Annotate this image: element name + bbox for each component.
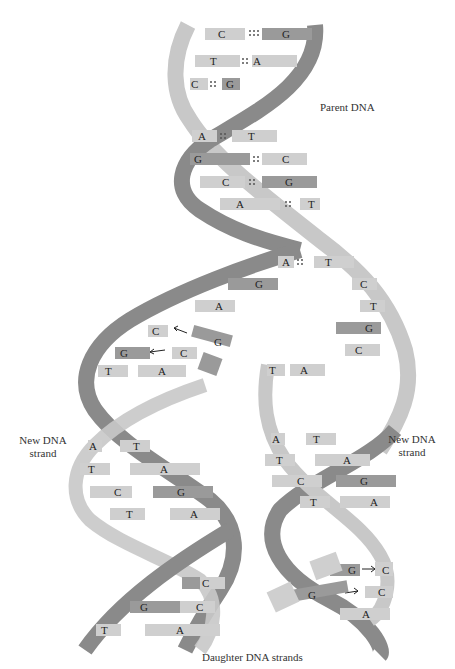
left-old-strand xyxy=(86,250,300,650)
svg-text:T: T xyxy=(210,55,217,67)
svg-text:T: T xyxy=(133,440,140,452)
svg-text:T: T xyxy=(269,364,276,376)
svg-text:C: C xyxy=(196,601,203,613)
svg-text:C: C xyxy=(282,153,289,165)
svg-text:T: T xyxy=(101,624,108,636)
svg-text:T: T xyxy=(248,130,255,142)
svg-text:A: A xyxy=(253,55,261,67)
svg-text:G: G xyxy=(365,322,373,334)
svg-text:A: A xyxy=(215,300,223,312)
svg-text:T: T xyxy=(325,256,332,268)
svg-text:G: G xyxy=(140,601,148,613)
svg-text:G: G xyxy=(282,28,290,40)
daughter-dna-label: Daughter DNA strands xyxy=(202,651,303,664)
svg-text:A: A xyxy=(160,463,168,475)
svg-text:C: C xyxy=(378,586,385,598)
svg-text:A: A xyxy=(176,624,184,636)
svg-text:A: A xyxy=(370,496,378,508)
svg-text:G: G xyxy=(255,278,263,290)
svg-text:G: G xyxy=(214,336,222,348)
svg-text:G: G xyxy=(177,486,185,498)
svg-text:T: T xyxy=(105,365,112,377)
svg-text:C: C xyxy=(191,78,198,90)
svg-text:C: C xyxy=(360,278,367,290)
svg-text:A: A xyxy=(300,364,308,376)
parent-dna-label: Parent DNA xyxy=(320,101,375,114)
right-daughter-pairs: AT TA CG TA GC GC A xyxy=(265,433,396,620)
svg-text:G: G xyxy=(285,176,293,188)
svg-text:T: T xyxy=(308,198,315,210)
svg-text:C: C xyxy=(202,577,209,589)
svg-text:A: A xyxy=(198,130,206,142)
svg-text:G: G xyxy=(194,153,202,165)
new-dna-left-line1: New DNA xyxy=(18,434,68,447)
svg-text:C: C xyxy=(218,28,225,40)
svg-text:C: C xyxy=(180,347,187,359)
svg-text:A: A xyxy=(282,256,290,268)
svg-text:C: C xyxy=(355,344,362,356)
svg-text:T: T xyxy=(126,508,133,520)
svg-text:A: A xyxy=(272,433,280,445)
svg-text:C: C xyxy=(297,475,304,487)
svg-text:G: G xyxy=(120,347,128,359)
svg-text:T: T xyxy=(313,433,320,445)
dna-replication-diagram: CG TA CG AT GC CG AT AT G A C T G C C G … xyxy=(0,0,455,669)
svg-text:A: A xyxy=(343,454,351,466)
svg-text:A: A xyxy=(362,608,370,620)
svg-text:C: C xyxy=(222,176,229,188)
svg-text:C: C xyxy=(152,325,159,337)
new-dna-right-line1: New DNA xyxy=(387,433,437,446)
svg-text:T: T xyxy=(276,454,283,466)
svg-text:A: A xyxy=(158,365,166,377)
svg-text:C: C xyxy=(114,486,121,498)
right-new-strand xyxy=(265,365,387,620)
svg-text:A: A xyxy=(89,440,97,452)
svg-text:C: C xyxy=(382,564,389,576)
svg-text:G: G xyxy=(308,589,316,601)
svg-text:T: T xyxy=(310,496,317,508)
new-dna-left-line2: strand xyxy=(18,447,68,460)
fork-bases: G A C T G C C G C G TA TA xyxy=(98,278,385,377)
svg-text:A: A xyxy=(190,508,198,520)
svg-text:G: G xyxy=(226,78,234,90)
svg-text:G: G xyxy=(348,564,356,576)
new-dna-right-line2: strand xyxy=(387,446,437,459)
svg-text:T: T xyxy=(88,463,95,475)
new-dna-strand-left-label: New DNA strand xyxy=(18,434,68,460)
svg-text:G: G xyxy=(360,475,368,487)
new-dna-strand-right-label: New DNA strand xyxy=(387,433,437,459)
svg-text:T: T xyxy=(370,300,377,312)
svg-text:A: A xyxy=(236,198,244,210)
